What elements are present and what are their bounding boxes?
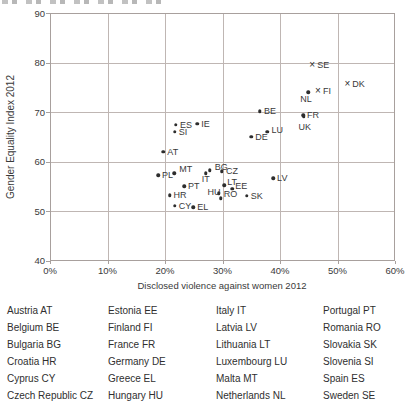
data-point-IE: [195, 122, 199, 126]
legend-item: Germany DE: [108, 356, 166, 367]
legend-item: Italy IT: [216, 305, 246, 316]
data-point-RO: [219, 196, 223, 200]
x-tick-label-40: 40%: [265, 266, 295, 275]
y-axis-tick-60: [46, 162, 50, 163]
data-point-BG: [208, 169, 212, 173]
legend-item: Latvia LV: [216, 322, 257, 333]
data-point-AT: [162, 150, 166, 154]
point-label-SE: SE: [317, 61, 329, 70]
plot-area: [50, 13, 395, 261]
gridline-vertical-40: [280, 14, 281, 260]
gridline-horizontal-50: [51, 211, 394, 212]
point-label-IT: IT: [202, 175, 210, 184]
y-tick-label-40: 40: [25, 256, 45, 265]
legend-item: Romania RO: [323, 322, 381, 333]
point-label-PL: PL: [162, 171, 173, 180]
country-legend: Austria ATBelgium BEBulgaria BGCroatia H…: [0, 300, 410, 402]
point-label-DE: DE: [255, 133, 268, 142]
point-label-HU: HU: [208, 188, 221, 197]
data-point-LV: [271, 177, 275, 181]
point-label-CZ: CZ: [226, 167, 238, 176]
legend-item: Czech Republic CZ: [7, 390, 93, 401]
y-axis-tick-90: [46, 13, 50, 14]
legend-item: Spain ES: [323, 373, 365, 384]
gridline-horizontal-80: [51, 63, 394, 64]
scatter-chart: Gender Equality Index 2012 Disclosed vio…: [0, 0, 410, 300]
gridline-vertical-20: [165, 14, 166, 260]
legend-item: Slovenia SI: [323, 356, 374, 367]
x-axis-title: Disclosed violence against women 2012: [138, 280, 307, 291]
x-axis-tick-20: [165, 261, 166, 264]
y-tick-label-60: 60: [25, 157, 45, 166]
x-axis-tick-50: [338, 261, 339, 264]
legend-item: Cyprus CY: [7, 373, 55, 384]
y-axis-tick-70: [46, 112, 50, 113]
legend-item: Finland FI: [108, 322, 152, 333]
point-label-PT: PT: [188, 182, 200, 191]
legend-item: Austria AT: [7, 305, 52, 316]
data-point-DK: ×: [344, 79, 350, 89]
y-tick-label-50: 50: [25, 207, 45, 216]
y-tick-label-80: 80: [25, 58, 45, 67]
legend-item: France FR: [108, 339, 155, 350]
point-label-CY: CY: [179, 202, 192, 211]
legend-item: Hungary HU: [108, 390, 163, 401]
point-label-HR: HR: [174, 191, 187, 200]
legend-item: Lithuania LT: [216, 339, 270, 350]
data-point-PL: [156, 174, 160, 178]
y-axis-tick-40: [46, 261, 50, 262]
point-label-NL: NL: [300, 95, 312, 104]
x-tick-label-60: 60%: [380, 266, 410, 275]
x-tick-label-50: 50%: [323, 266, 353, 275]
data-point-SE: ×: [309, 60, 315, 70]
x-axis-tick-10: [108, 261, 109, 264]
data-point-UK: [302, 115, 306, 119]
y-axis-tick-50: [46, 211, 50, 212]
legend-item: Netherlands NL: [216, 390, 285, 401]
point-label-RO: RO: [224, 190, 238, 199]
y-tick-label-70: 70: [25, 108, 45, 117]
y-axis-tick-80: [46, 63, 50, 64]
data-point-FI: ×: [315, 86, 321, 96]
x-axis-tick-30: [223, 261, 224, 264]
x-tick-label-30: 30%: [208, 266, 238, 275]
point-label-MT: MT: [179, 165, 192, 174]
point-label-SI: SI: [179, 128, 188, 137]
legend-item: Belgium BE: [7, 322, 59, 333]
legend-item: Croatia HR: [7, 356, 56, 367]
x-axis-tick-40: [280, 261, 281, 264]
data-point-HR: [168, 193, 172, 197]
point-label-LV: LV: [277, 174, 287, 183]
x-axis-tick-60: [395, 261, 396, 264]
legend-item: Bulgaria BG: [7, 339, 61, 350]
data-point-BE: [258, 109, 262, 113]
x-tick-label-20: 20%: [150, 266, 180, 275]
data-point-EL: [191, 205, 195, 209]
x-tick-label-10: 10%: [93, 266, 123, 275]
point-label-FI: FI: [323, 87, 331, 96]
data-point-CZ: [220, 170, 224, 174]
y-tick-label-90: 90: [25, 9, 45, 18]
legend-item: Portugal PT: [323, 305, 376, 316]
point-label-DK: DK: [352, 80, 365, 89]
point-label-LU: LU: [271, 126, 283, 135]
legend-item: Luxembourg LU: [216, 356, 287, 367]
gridline-vertical-30: [223, 14, 224, 260]
data-point-SK: [245, 194, 249, 198]
data-point-DE: [250, 135, 254, 139]
data-point-SI: [173, 130, 177, 134]
point-label-EL: EL: [197, 203, 208, 212]
data-point-PT: [182, 185, 186, 189]
data-point-ES: [174, 123, 178, 127]
point-label-UK: UK: [299, 123, 312, 132]
data-point-CY: [173, 204, 177, 208]
figure-scatter-gei-vs-violence: Gender Equality Index 2012 Disclosed vio…: [0, 0, 410, 402]
point-label-AT: AT: [167, 148, 178, 157]
legend-item: Slovakia SK: [323, 339, 377, 350]
data-point-LT: [222, 184, 226, 188]
x-tick-label-0: 0%: [35, 266, 65, 275]
legend-item: Estonia EE: [108, 305, 157, 316]
point-label-BE: BE: [264, 107, 276, 116]
y-axis-title: Gender Equality Index 2012: [5, 75, 16, 199]
legend-item: Sweden SE: [323, 390, 375, 401]
